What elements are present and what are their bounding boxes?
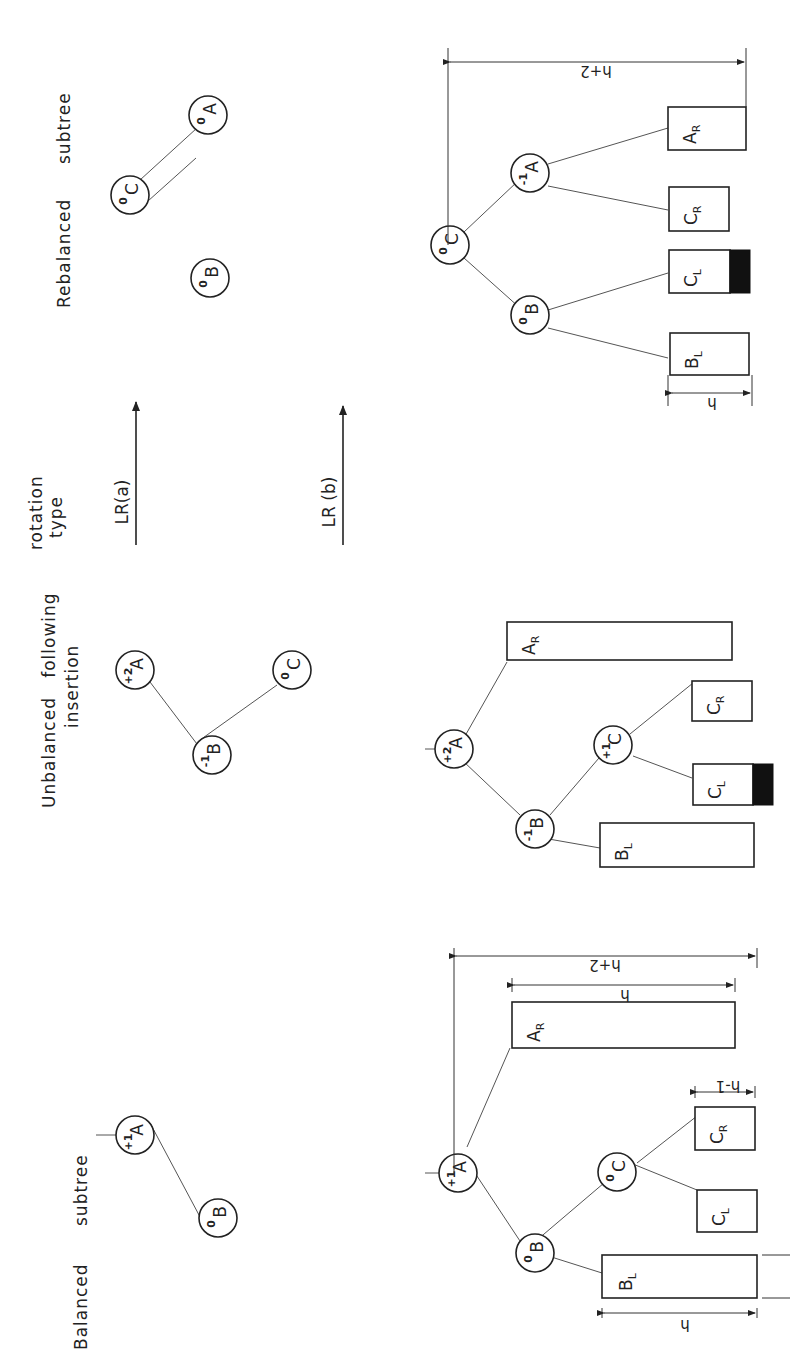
node-a: +1 A [116, 1116, 154, 1154]
svg-text:B: B [202, 266, 222, 278]
subtree-cr: CR [669, 187, 729, 231]
heading-balanced-line1: Balanced [71, 1263, 91, 1350]
svg-text:LR(a): LR(a) [112, 480, 132, 525]
node-b: 0 B [191, 259, 229, 297]
svg-text:-1: -1 [517, 173, 530, 185]
svg-text:h: h [620, 986, 630, 1004]
svg-text:0: 0 [279, 672, 292, 680]
rotation-lr-b: LR (b) [319, 406, 343, 545]
svg-text:A: A [450, 1161, 470, 1173]
svg-text:+2: +2 [441, 747, 454, 764]
column-headings: Balanced subtree Unbalanced following in… [26, 92, 91, 1350]
node-b: 0 B [516, 1234, 554, 1272]
svg-text:0: 0 [195, 117, 208, 125]
svg-text:+2: +2 [122, 668, 135, 685]
heading-balanced-line2: subtree [71, 1154, 91, 1226]
balanced-general-tree: +1 A 0 B 0 C BL CL CR AR [425, 948, 790, 1334]
svg-text:h: h [707, 394, 717, 412]
subtree-bl: BL [602, 1255, 757, 1298]
subtree-ar: AR [668, 107, 746, 150]
svg-text:B: B [522, 303, 542, 315]
svg-text:+1: +1 [600, 743, 613, 760]
svg-text:B: B [527, 817, 547, 829]
heading-rebalanced-line1: Rebalanced [54, 199, 74, 308]
heading-rebalanced-line2: subtree [54, 92, 74, 164]
svg-text:B: B [210, 1206, 230, 1218]
subtree-cl: CL [693, 764, 773, 805]
diagram-canvas: Balanced subtree Unbalanced following in… [0, 0, 812, 1368]
heading-unbalanced-line2: insertion [62, 645, 82, 728]
svg-text:-1: -1 [522, 829, 535, 841]
node-c: 0 C [111, 176, 149, 214]
node-a: +2 A [116, 651, 154, 689]
svg-text:C: C [609, 1160, 629, 1172]
node-a: -1 A [511, 154, 549, 192]
svg-text:+1: +1 [122, 1134, 135, 1151]
unbalanced-simple-tree: +2 A -1 B 0 C [116, 651, 311, 774]
svg-text:0: 0 [205, 1220, 218, 1228]
svg-text:+1: +1 [445, 1171, 458, 1188]
svg-text:B: B [204, 743, 224, 755]
svg-text:A: A [127, 1124, 147, 1136]
subtree-cl: CL [697, 1190, 757, 1232]
subtree-bl: BL [670, 333, 749, 375]
svg-text:0: 0 [522, 1255, 535, 1263]
svg-text:h+2: h+2 [589, 956, 621, 974]
svg-text:h-1: h-1 [716, 1077, 740, 1095]
subtree-cr: CR [692, 681, 752, 721]
svg-text:C: C [442, 233, 462, 245]
node-a: +1 A [439, 1154, 477, 1192]
node-a: +2 A [435, 730, 473, 768]
rotation-lr-a: LR(a) [112, 402, 136, 545]
svg-text:C: C [122, 183, 142, 195]
node-c: 0 C [598, 1153, 636, 1191]
subtree-ar: AR [507, 622, 732, 660]
svg-text:0: 0 [517, 317, 530, 325]
node-b: 0 B [511, 296, 549, 334]
rebalanced-general-tree: 0 C 0 B -1 A BL CL CR AR [431, 48, 752, 412]
svg-text:C: C [605, 733, 625, 745]
svg-text:A: A [446, 737, 466, 749]
heading-rotation-line1: rotation [26, 475, 46, 550]
svg-text:-1: -1 [199, 755, 212, 767]
avl-lr-rotation-diagram: Balanced subtree Unbalanced following in… [0, 0, 812, 1368]
node-b: 0 B [199, 1199, 237, 1237]
svg-text:LR (b): LR (b) [319, 477, 339, 528]
subtree-cl: CL [669, 250, 750, 293]
heading-rotation-line2: type [46, 496, 66, 538]
svg-text:0: 0 [117, 197, 130, 205]
subtree-bl: BL [600, 823, 754, 867]
subtree-ar: AR [512, 1002, 735, 1048]
svg-text:0: 0 [437, 247, 450, 255]
rebalanced-simple-tree: 0 C 0 A 0 B [111, 96, 229, 297]
unbalanced-general-tree: +2 A -1 B +1 C BL CL CR AR [425, 622, 773, 867]
svg-text:h: h [680, 1316, 690, 1334]
svg-text:A: A [200, 103, 220, 115]
svg-text:A: A [522, 161, 542, 173]
subtree-cr: CR [695, 1107, 755, 1150]
node-c: 0 C [431, 226, 469, 264]
node-c: +1 C [594, 726, 632, 764]
svg-text:0: 0 [197, 280, 210, 288]
heading-unbalanced-line1: Unbalanced following [39, 592, 59, 808]
node-a: 0 A [189, 96, 227, 134]
node-b: -1 B [193, 736, 231, 774]
svg-text:h+2: h+2 [580, 62, 612, 80]
node-b: -1 B [516, 810, 554, 848]
dimension-bl-h [762, 1255, 790, 1298]
rotation-arrows: LR(a) LR (b) [112, 402, 343, 545]
svg-text:B: B [527, 1241, 547, 1253]
svg-text:A: A [127, 658, 147, 670]
svg-text:C: C [284, 658, 304, 670]
node-c: 0 C [273, 651, 311, 689]
balanced-simple-tree: +1 A 0 B [96, 1116, 237, 1237]
svg-text:0: 0 [604, 1174, 617, 1182]
